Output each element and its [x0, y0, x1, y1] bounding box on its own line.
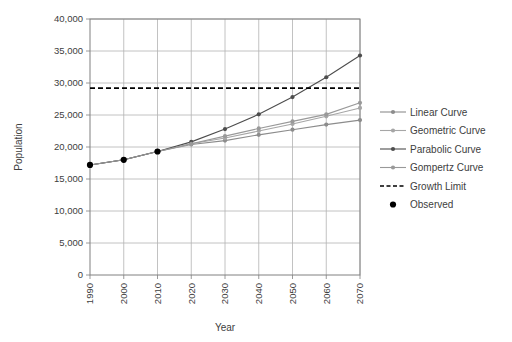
- data-point-observed: [87, 162, 93, 168]
- data-point-linear-curve: [257, 133, 261, 137]
- legend: Linear CurveGeometric CurveParabolic Cur…: [380, 107, 486, 211]
- y-tick-label: 25,000: [54, 109, 83, 120]
- x-tick-label: 2070: [354, 283, 365, 304]
- x-tick-label: 2040: [253, 283, 264, 304]
- x-tick-label: 2020: [186, 283, 197, 304]
- y-tick-label: 20,000: [54, 141, 83, 152]
- legend-swatch-marker: [391, 110, 395, 114]
- legend-swatch-marker: [391, 128, 395, 132]
- data-point-gompertz-curve: [257, 126, 261, 130]
- x-tick-label: 2010: [152, 283, 163, 304]
- x-axis-title: Year: [215, 322, 236, 333]
- population-projection-chart: 05,00010,00015,00020,00025,00030,00035,0…: [0, 0, 512, 342]
- legend-swatch-marker: [390, 201, 396, 207]
- data-point-linear-curve: [290, 128, 294, 132]
- y-tick-label: 30,000: [54, 77, 83, 88]
- legend-item-gompertz-curve[interactable]: Gompertz Curve: [380, 162, 484, 173]
- x-tick-label: 2030: [219, 283, 230, 304]
- data-point-parabolic-curve: [223, 127, 227, 131]
- data-point-geometric-curve: [358, 106, 362, 110]
- x-tick-label: 2000: [118, 283, 129, 304]
- y-tick-label: 35,000: [54, 45, 83, 56]
- legend-label: Growth Limit: [410, 181, 466, 192]
- data-point-linear-curve: [358, 118, 362, 122]
- x-tick-label: 2050: [287, 283, 298, 304]
- x-axis: 199020002010202020302040205020602070: [84, 275, 365, 304]
- data-point-parabolic-curve: [257, 112, 261, 116]
- y-axis-title: Population: [13, 123, 24, 170]
- data-point-observed: [121, 157, 127, 163]
- x-tick-label: 2060: [321, 283, 332, 304]
- legend-item-observed[interactable]: Observed: [390, 199, 453, 210]
- legend-item-parabolic-curve[interactable]: Parabolic Curve: [380, 144, 482, 155]
- legend-label: Geometric Curve: [410, 125, 486, 136]
- data-point-gompertz-curve: [358, 101, 362, 105]
- y-axis: 05,00010,00015,00020,00025,00030,00035,0…: [54, 13, 90, 280]
- legend-item-geometric-curve[interactable]: Geometric Curve: [380, 125, 486, 136]
- x-tick-label: 1990: [84, 283, 95, 304]
- series-group: [87, 53, 362, 168]
- legend-label: Linear Curve: [410, 107, 468, 118]
- data-point-gompertz-curve: [324, 112, 328, 116]
- y-tick-label: 10,000: [54, 205, 83, 216]
- y-tick-label: 5,000: [59, 237, 83, 248]
- legend-label: Observed: [410, 199, 453, 210]
- legend-label: Gompertz Curve: [410, 162, 484, 173]
- data-point-parabolic-curve: [358, 53, 362, 57]
- data-point-parabolic-curve: [290, 95, 294, 99]
- data-point-gompertz-curve: [290, 119, 294, 123]
- data-point-linear-curve: [324, 123, 328, 127]
- y-tick-label: 40,000: [54, 13, 83, 24]
- y-tick-label: 0: [78, 269, 83, 280]
- chart-canvas: 05,00010,00015,00020,00025,00030,00035,0…: [0, 0, 512, 342]
- grid-group: [90, 19, 360, 275]
- data-point-observed: [154, 148, 160, 154]
- y-tick-label: 15,000: [54, 173, 83, 184]
- legend-swatch-marker: [391, 165, 395, 169]
- legend-item-linear-curve[interactable]: Linear Curve: [380, 107, 468, 118]
- data-point-gompertz-curve: [223, 134, 227, 138]
- data-point-gompertz-curve: [189, 142, 193, 146]
- legend-item-growth-limit[interactable]: Growth Limit: [380, 181, 466, 192]
- data-point-parabolic-curve: [324, 75, 328, 79]
- legend-label: Parabolic Curve: [410, 144, 482, 155]
- legend-swatch-marker: [391, 147, 395, 151]
